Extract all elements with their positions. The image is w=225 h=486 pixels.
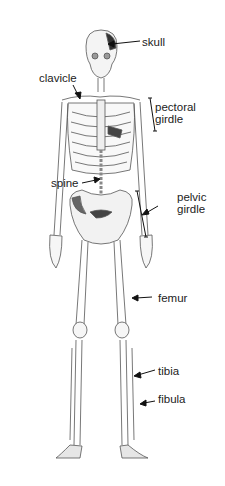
label-clavicle: clavicle bbox=[39, 72, 77, 84]
label-fibula: fibula bbox=[158, 393, 186, 405]
label-tibia: tibia bbox=[158, 365, 179, 377]
label-pectoral-girdle-line2: girdle bbox=[155, 113, 183, 125]
label-pectoral-girdle-line1: pectoral bbox=[155, 101, 196, 113]
label-spine: spine bbox=[51, 177, 79, 189]
label-femur: femur bbox=[158, 292, 187, 304]
label-pelvic-girdle-line1: pelvic bbox=[177, 191, 206, 203]
skeleton-drawing bbox=[0, 0, 225, 486]
label-pelvic-girdle-line2: girdle bbox=[177, 203, 205, 215]
label-skull: skull bbox=[142, 36, 165, 48]
